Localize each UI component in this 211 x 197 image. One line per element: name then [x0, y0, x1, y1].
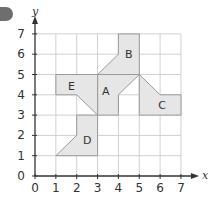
x-axis-arrow-icon: [191, 173, 199, 179]
y-tick-label: 4: [17, 88, 25, 102]
y-tick-label: 3: [17, 108, 25, 122]
shape-label-d: D: [83, 134, 91, 147]
x-tick-label: 6: [156, 181, 164, 195]
x-tick-label: 2: [73, 181, 81, 195]
x-tick-label: 7: [177, 181, 185, 195]
y-tick-label: 6: [17, 47, 25, 61]
y-tick-label: 2: [17, 128, 25, 142]
x-tick-label: 0: [31, 181, 39, 195]
shape-label-a: A: [102, 85, 110, 98]
shape-label-e: E: [68, 80, 75, 93]
y-tick-label: 0: [17, 169, 25, 183]
y-tick-label: 1: [17, 149, 25, 163]
x-tick-label: 1: [52, 181, 60, 195]
y-axis-label: y: [31, 5, 39, 18]
shape-label-c: C: [158, 99, 166, 112]
shape-label-b: B: [125, 48, 133, 61]
y-tick-label: 7: [17, 27, 25, 41]
x-tick-label: 4: [115, 181, 123, 195]
coordinate-grid: ABCDExy0123456701234567: [0, 0, 211, 197]
y-tick-label: 5: [17, 68, 25, 82]
x-axis-label: x: [202, 169, 209, 182]
x-tick-label: 5: [135, 181, 143, 195]
x-tick-label: 3: [94, 181, 102, 195]
